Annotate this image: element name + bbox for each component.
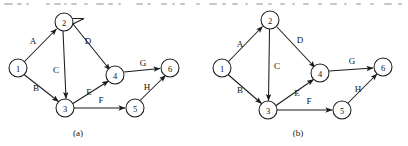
edge-b-G	[329, 68, 373, 71]
edge-a-label-H: H	[144, 82, 151, 92]
edge-a-B	[24, 75, 59, 102]
caption-a: (a)	[73, 128, 83, 138]
edge-b-label-H: H	[355, 84, 362, 94]
edge-b-A	[229, 27, 263, 62]
node-a-5-label: 5	[133, 104, 137, 114]
diagram-b: A B C D E F G H 1 2 3 4	[213, 11, 392, 138]
edge-a-D	[73, 19, 111, 71]
edge-a-label-G: G	[140, 58, 147, 68]
edge-b-label-G: G	[349, 56, 356, 66]
edge-a-C	[63, 31, 66, 99]
node-a-6-label: 6	[168, 64, 172, 74]
edge-a-label-C: C	[53, 65, 59, 75]
node-b-6-label: 6	[381, 63, 385, 73]
node-a-5[interactable]: 5	[126, 99, 144, 117]
node-a-3[interactable]: 3	[56, 99, 74, 117]
edge-b-label-B: B	[237, 85, 243, 95]
caption-b: (b)	[293, 128, 304, 138]
edge-b-B	[228, 75, 262, 104]
node-b-5-label: 5	[340, 106, 344, 116]
edge-a-label-F: F	[98, 95, 103, 105]
edge-b-D	[277, 27, 315, 68]
node-b-6[interactable]: 6	[374, 58, 392, 76]
node-b-5[interactable]: 5	[333, 101, 351, 119]
edge-b-H	[348, 74, 377, 103]
diagram-svg-canvas: A B C D E F G H 1 2 3 4	[0, 0, 408, 146]
edge-b-label-A: A	[237, 39, 244, 49]
node-a-1-label: 1	[16, 64, 20, 74]
node-b-4[interactable]: 4	[311, 64, 329, 82]
edge-b-label-F: F	[306, 96, 311, 106]
diagram-a: A B C D E F G H 1 2 3 4	[9, 13, 179, 138]
edge-a-label-D: D	[85, 36, 92, 46]
edge-b-C	[269, 29, 270, 101]
node-a-2[interactable]: 2	[55, 13, 73, 31]
node-b-1-label: 1	[220, 64, 224, 74]
edge-a-G	[124, 69, 160, 73]
edge-a-label-B: B	[33, 83, 39, 93]
edge-a-label-A: A	[30, 36, 37, 46]
edge-b-label-C: C	[274, 61, 280, 71]
node-a-3-label: 3	[63, 104, 67, 114]
edge-a-label-E: E	[86, 87, 92, 97]
figure-container: A B C D E F G H 1 2 3 4	[0, 0, 408, 146]
edge-b-label-D: D	[297, 35, 304, 45]
node-b-2[interactable]: 2	[261, 11, 279, 29]
node-b-3[interactable]: 3	[259, 101, 277, 119]
node-b-1[interactable]: 1	[213, 59, 231, 77]
node-a-4[interactable]: 4	[106, 66, 124, 84]
node-a-2-label: 2	[62, 18, 66, 28]
node-a-6[interactable]: 6	[161, 59, 179, 77]
node-a-1[interactable]: 1	[9, 59, 27, 77]
node-b-3-label: 3	[266, 106, 270, 116]
edge-b-label-E: E	[294, 88, 300, 98]
node-b-2-label: 2	[268, 16, 272, 26]
